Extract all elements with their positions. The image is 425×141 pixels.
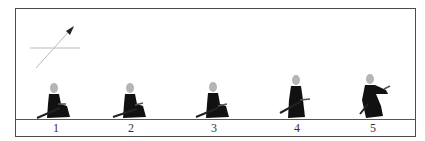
frame-label-3: 3 xyxy=(204,121,224,136)
frame-label-2: 2 xyxy=(121,121,141,136)
figure-4 xyxy=(280,75,310,118)
direction-arrow-icon xyxy=(30,26,80,68)
figure-3 xyxy=(196,82,229,118)
frame-label-4: 4 xyxy=(287,121,307,136)
frame-label-1: 1 xyxy=(46,121,66,136)
illustration xyxy=(0,0,425,141)
frame-label-5: 5 xyxy=(363,121,383,136)
figure-1 xyxy=(37,83,70,118)
figure-2 xyxy=(113,83,146,118)
figure-5 xyxy=(360,74,390,118)
